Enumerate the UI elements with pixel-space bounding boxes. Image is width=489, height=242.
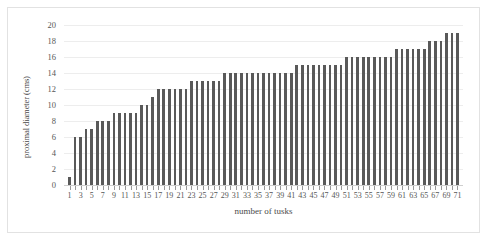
bar [401, 49, 404, 185]
x-axis-tick [214, 186, 215, 190]
bar [135, 113, 138, 185]
bar [440, 41, 443, 185]
x-axis-tick [164, 186, 165, 190]
x-axis-tick [241, 186, 242, 190]
x-axis-tick-label: 53 [354, 190, 362, 202]
bar [107, 121, 110, 185]
x-axis-tick-label: 55 [365, 190, 373, 202]
x-axis-tick-label: 61 [398, 190, 406, 202]
x-axis-tick [75, 186, 76, 190]
x-axis-tick [186, 186, 187, 190]
x-axis-tick-label: 33 [243, 190, 251, 202]
x-axis-tick [252, 186, 253, 190]
x-axis-tick [230, 186, 231, 190]
bar [140, 105, 143, 185]
x-axis-tick-label: 43 [298, 190, 306, 202]
x-axis-tick [197, 186, 198, 190]
x-axis-tick-label: 15 [143, 190, 151, 202]
x-axis-tick [158, 186, 159, 190]
x-axis-tick [147, 186, 148, 190]
x-axis-tick-label: 9 [112, 190, 116, 202]
bar [185, 89, 188, 185]
x-axis-tick [208, 186, 209, 190]
bar [351, 57, 354, 185]
x-axis-tick [92, 186, 93, 190]
bar [257, 73, 260, 185]
x-axis-tick [424, 186, 425, 190]
x-axis-tick [70, 186, 71, 190]
x-axis-tick-label: 65 [420, 190, 428, 202]
x-axis-tick-label: 45 [309, 190, 317, 202]
x-axis-tick-label: 51 [343, 190, 351, 202]
bar [434, 41, 437, 185]
x-axis-tick [191, 186, 192, 190]
x-axis-tick-label: 11 [121, 190, 129, 202]
bar [329, 65, 332, 185]
x-axis-tick [408, 186, 409, 190]
bar [356, 57, 359, 185]
x-axis-tick [169, 186, 170, 190]
x-axis-tick [119, 186, 120, 190]
bar [428, 41, 431, 185]
x-axis-tick [446, 186, 447, 190]
x-axis-tick-label: 47 [320, 190, 328, 202]
bar [129, 113, 132, 185]
bar [207, 81, 210, 185]
x-axis-tick-label: 5 [90, 190, 94, 202]
x-axis-tick [336, 186, 337, 190]
x-axis-tick [258, 186, 259, 190]
x-axis-tick-labels: 1357911131517192123252729313335373941434… [64, 190, 463, 202]
x-axis-tick [330, 186, 331, 190]
x-axis-tick [297, 186, 298, 190]
x-axis-tick [413, 186, 414, 190]
x-axis-tick-label: 7 [101, 190, 105, 202]
bar [251, 73, 254, 185]
chart-frame: proximal diameter (cms) 0246810121416182… [7, 7, 480, 233]
bar [334, 65, 337, 185]
x-axis-tick [81, 186, 82, 190]
x-axis-tick-label: 27 [210, 190, 218, 202]
bar [151, 97, 154, 185]
x-axis-tick-label: 39 [276, 190, 284, 202]
bar [101, 121, 104, 185]
x-axis-tick-label: 41 [287, 190, 295, 202]
y-axis-tick-label: 16 [48, 52, 57, 62]
y-axis-tick-label: 8 [52, 116, 56, 126]
bar [168, 89, 171, 185]
x-axis-tick [352, 186, 353, 190]
bar [456, 33, 459, 185]
x-axis-tick [86, 186, 87, 190]
y-axis-tick-label: 2 [52, 164, 56, 174]
x-axis-tick [180, 186, 181, 190]
x-axis-tick [136, 186, 137, 190]
bar [373, 57, 376, 185]
bar [179, 89, 182, 185]
x-axis-tick [324, 186, 325, 190]
bar [412, 49, 415, 185]
x-axis-tick [435, 186, 436, 190]
y-axis-tick-label: 18 [48, 36, 57, 46]
x-axis-tick [97, 186, 98, 190]
bar [445, 33, 448, 185]
x-axis-tick-label: 29 [221, 190, 229, 202]
x-axis-tick [358, 186, 359, 190]
x-axis-tick-label: 1 [68, 190, 72, 202]
x-axis-tick [308, 186, 309, 190]
x-axis-tick [374, 186, 375, 190]
x-axis-tick [441, 186, 442, 190]
x-axis-tick [302, 186, 303, 190]
bar [273, 73, 276, 185]
y-axis-tick-label: 10 [48, 100, 57, 110]
x-axis-tick [313, 186, 314, 190]
x-axis-tick-label: 69 [442, 190, 450, 202]
bar [118, 113, 121, 185]
bar [379, 57, 382, 185]
bar-series [64, 25, 463, 185]
bar [90, 129, 93, 185]
x-axis-tick [275, 186, 276, 190]
bar [174, 89, 177, 185]
bar [284, 73, 287, 185]
plot-area [64, 25, 463, 185]
bar [279, 73, 282, 185]
x-axis-tick-label: 21 [176, 190, 184, 202]
